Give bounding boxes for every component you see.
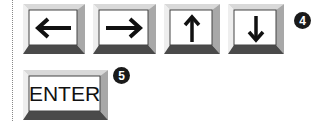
step-badge-5: 5 (113, 67, 130, 84)
down-arrow-key (228, 4, 284, 54)
enter-key-label: ENTER (29, 82, 100, 106)
key-bevel (164, 4, 220, 54)
margin-dotted-line (12, 0, 13, 121)
right-arrow-key (93, 4, 156, 54)
left-arrow-key (23, 4, 85, 54)
enter-key: ENTER (23, 70, 108, 120)
step-badge-4: 4 (294, 12, 311, 29)
key-bevel (228, 4, 284, 54)
key-bevel (93, 4, 156, 54)
key-bevel (23, 4, 85, 54)
up-arrow-key (164, 4, 220, 54)
